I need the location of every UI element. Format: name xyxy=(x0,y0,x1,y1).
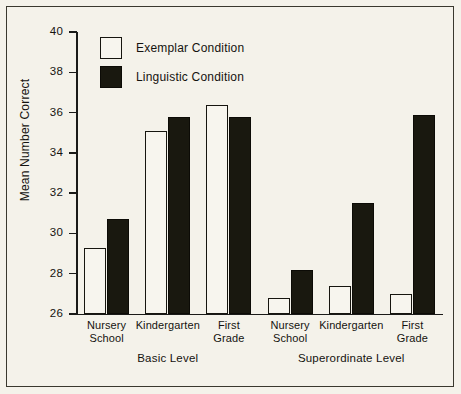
bar-linguistic xyxy=(229,117,251,314)
y-tick-label: 26 xyxy=(29,308,63,320)
bar-linguistic xyxy=(413,115,435,314)
x-tick-label-line2: School xyxy=(245,332,335,345)
y-tick-label: 36 xyxy=(29,107,63,119)
y-tick-label: 28 xyxy=(29,268,63,280)
y-axis-label: Mean Number Correct xyxy=(18,60,32,220)
bar-linguistic xyxy=(168,117,190,314)
figure-container: Exemplar Condition Linguistic Condition … xyxy=(0,0,461,394)
x-group-label: Basic Level xyxy=(78,352,258,364)
y-tick-label: 30 xyxy=(29,227,63,239)
bar-exemplar xyxy=(268,298,290,314)
bar-exemplar xyxy=(84,248,106,314)
y-tick-label: 40 xyxy=(29,26,63,38)
bar-exemplar xyxy=(145,131,167,314)
x-tick-label-line2: Grade xyxy=(367,332,457,345)
x-tick-label-line1: First xyxy=(367,319,457,332)
bar-linguistic xyxy=(291,270,313,314)
figure-frame: Exemplar Condition Linguistic Condition … xyxy=(6,6,454,387)
plot-area xyxy=(76,32,443,314)
bar-linguistic xyxy=(352,203,374,314)
x-group-label: Superordinate Level xyxy=(261,352,441,364)
bar-linguistic xyxy=(107,219,129,314)
x-tick-label: FirstGrade xyxy=(367,319,457,344)
y-tick-label: 34 xyxy=(29,147,63,159)
bar-exemplar xyxy=(390,294,412,314)
bar-exemplar xyxy=(206,105,228,314)
bar-exemplar xyxy=(329,286,351,314)
y-tick-label: 32 xyxy=(29,187,63,199)
x-tick-label-line2: School xyxy=(62,332,152,345)
y-tick-label: 38 xyxy=(29,66,63,78)
